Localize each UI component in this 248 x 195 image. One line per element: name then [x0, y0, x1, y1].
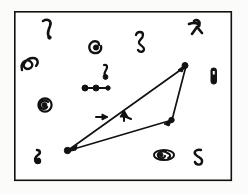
figure-stage: Scattered marks with triangular path ove… — [0, 0, 248, 195]
panel-background — [14, 11, 232, 181]
